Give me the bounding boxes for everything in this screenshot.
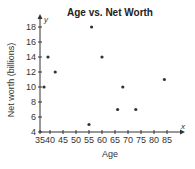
axes — [38, 14, 186, 135]
x-tick-label: 80 — [149, 135, 159, 145]
x-tick-label: 75 — [136, 135, 146, 145]
y-tick-label: 12 — [26, 67, 36, 77]
data-point — [87, 123, 90, 126]
scatter-chart: Age vs. Net Worth Net worth (billions) A… — [0, 0, 195, 169]
x-tick-label: 35 — [35, 135, 45, 145]
data-points — [42, 25, 166, 126]
data-point — [116, 108, 119, 111]
x-tick-label: 50 — [71, 135, 81, 145]
y-axis-letter: y — [43, 15, 49, 24]
data-point — [90, 25, 93, 28]
x-tick-label: 40 — [45, 135, 55, 145]
x-tick-label: 55 — [84, 135, 94, 145]
x-tick-label: 70 — [123, 135, 133, 145]
chart-canvas: Age vs. Net Worth Net worth (billions) A… — [0, 0, 195, 169]
y-tick-label: 10 — [26, 82, 36, 92]
data-point — [46, 55, 49, 58]
x-tick-label: 85 — [162, 135, 172, 145]
data-point — [163, 78, 166, 81]
data-point — [121, 85, 124, 88]
y-tick-label: 6 — [31, 112, 36, 122]
x-tick-label: 45 — [58, 135, 68, 145]
y-tick-label: 14 — [26, 52, 36, 62]
y-axis-arrow-icon — [38, 14, 43, 19]
data-point — [100, 55, 103, 58]
y-tick-label: 8 — [31, 97, 36, 107]
data-point — [134, 108, 137, 111]
data-point — [42, 85, 45, 88]
x-tick-label: 60 — [97, 135, 107, 145]
chart-title: Age vs. Net Worth — [67, 7, 153, 18]
x-axis-label: Age — [102, 149, 118, 159]
tick-marks: 46810121416183540455055606570758085 — [26, 22, 172, 145]
data-point — [54, 70, 57, 73]
x-axis-letter: x — [180, 122, 186, 131]
x-tick-label: 65 — [110, 135, 120, 145]
y-tick-label: 16 — [26, 37, 36, 47]
y-axis-label: Net worth (billions) — [6, 43, 16, 118]
y-tick-label: 18 — [26, 22, 36, 32]
